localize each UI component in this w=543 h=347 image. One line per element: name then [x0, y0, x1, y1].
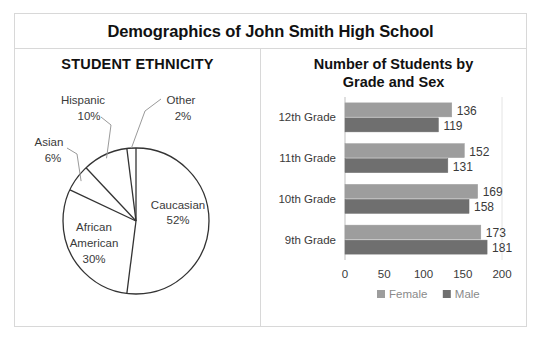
header-title-row: Demographics of John Smith High School: [15, 14, 526, 49]
x-axis-tick-label: 50: [378, 268, 391, 280]
bar-category-label: 11th Grade: [279, 152, 336, 164]
legend-label: Male: [455, 288, 480, 300]
bar-value-label: 158: [474, 200, 494, 214]
pie-slice-label-asian: 6%: [45, 152, 62, 164]
pie-slice-label-african-american: 30%: [82, 253, 105, 265]
bar-category-label: 12th Grade: [278, 111, 336, 123]
pie-slice-label-other: Other: [167, 94, 196, 106]
x-axis-tick-label: 0: [342, 268, 348, 280]
pie-slice-label-african-american: African: [76, 221, 112, 233]
bar-value-label: 169: [483, 185, 503, 199]
legend-swatch: [443, 290, 451, 298]
x-axis-tick-label: 200: [492, 268, 511, 280]
page-title: Demographics of John Smith High School: [107, 22, 433, 41]
pie-slice-label-other: 2%: [175, 110, 192, 122]
bar-segment: [345, 103, 452, 117]
bar-segment: [345, 199, 469, 213]
bar-value-label: 173: [486, 226, 506, 240]
bar-segment: [345, 144, 464, 158]
pie-slice-label-hispanic: Hispanic: [61, 94, 105, 106]
bar-chart-svg: 12th Grade13611911th Grade15213110th Gra…: [261, 49, 527, 327]
pie-slice-label-caucasian: Caucasian: [151, 199, 205, 211]
pie-slice-label-hispanic: 10%: [77, 110, 100, 122]
pie-slice-label-asian: Asian: [35, 136, 64, 148]
bar-segment: [345, 225, 481, 239]
bar-value-label: 181: [492, 241, 512, 255]
pie-chart-svg: Caucasian52%AfricanAmerican30%Asian6%His…: [15, 49, 261, 327]
x-axis-tick-label: 150: [453, 268, 472, 280]
bar-segment: [345, 118, 438, 132]
x-axis-tick-label: 100: [414, 268, 433, 280]
bar-value-label: 136: [457, 104, 477, 118]
legend-swatch: [377, 290, 385, 298]
pie-chart-panel: STUDENT ETHNICITY Caucasian52%AfricanAme…: [15, 49, 261, 327]
bar-chart-panel: Number of Students by Grade and Sex 12th…: [261, 49, 526, 327]
chart-frame: Demographics of John Smith High School S…: [14, 13, 527, 327]
bar-value-label: 152: [469, 145, 489, 159]
bar-category-label: 10th Grade: [278, 193, 336, 205]
bar-segment: [345, 240, 487, 254]
bar-value-label: 131: [453, 160, 473, 174]
pie-slice-label-african-american: American: [70, 237, 119, 249]
bar-category-label: 9th Grade: [285, 234, 336, 246]
bar-segment: [345, 159, 448, 173]
bar-segment: [345, 184, 478, 198]
bar-value-label: 119: [443, 119, 462, 133]
legend-label: Female: [389, 288, 427, 300]
panels-container: STUDENT ETHNICITY Caucasian52%AfricanAme…: [15, 49, 526, 327]
pie-slice-label-caucasian: 52%: [166, 214, 189, 226]
